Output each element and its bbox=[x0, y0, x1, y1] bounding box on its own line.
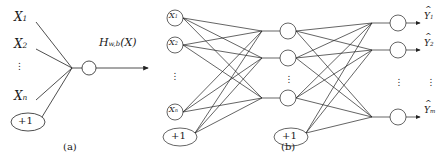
output-node-m bbox=[390, 109, 406, 125]
input-bias-label: +1 bbox=[171, 131, 186, 141]
output-label-m: Y^m bbox=[424, 106, 435, 115]
hidden-node-2 bbox=[280, 50, 296, 66]
panel-a-input-ellipsis: ... bbox=[18, 60, 21, 70]
panel-b-caption: (b) bbox=[281, 141, 295, 152]
figure-canvas: X1 X2 Xn ... +1 Hw,b(X) (a) X1 X2 Xn ...… bbox=[0, 0, 445, 165]
hidden-node-1 bbox=[280, 23, 296, 39]
output-label-ellipsis: ... bbox=[426, 76, 436, 86]
hidden-node-3 bbox=[280, 90, 296, 106]
hidden-bias-label: +1 bbox=[282, 131, 297, 141]
panel-a-output-label: Hw,b(X) bbox=[99, 37, 137, 48]
panel-b-input-to-hidden-edges bbox=[183, 18, 262, 133]
panel-b-hidden-to-output-edges bbox=[296, 23, 372, 133]
panel-a-input-edges bbox=[36, 22, 72, 117]
hidden-column-ellipsis: ... bbox=[284, 73, 294, 83]
panel-a-input-label-2: X2 bbox=[14, 38, 27, 50]
panel-a-caption: (a) bbox=[63, 141, 77, 152]
input-node-label-n: Xn bbox=[169, 106, 178, 114]
panel-a-input-label-1: X1 bbox=[14, 11, 27, 23]
output-column-ellipsis: ... bbox=[394, 76, 404, 86]
input-node-label-1: X1 bbox=[169, 12, 178, 20]
output-label-1: Y^1 bbox=[424, 12, 434, 21]
output-node-1 bbox=[390, 15, 406, 31]
input-column-ellipsis: ... bbox=[170, 70, 180, 80]
panel-a-bias-label: +1 bbox=[18, 116, 33, 126]
panel-a-input-label-n: Xn bbox=[14, 90, 27, 102]
output-label-2: Y^2 bbox=[424, 39, 434, 48]
panel-a-neuron bbox=[82, 61, 96, 75]
output-node-2 bbox=[390, 42, 406, 58]
input-node-label-2: X2 bbox=[169, 39, 178, 47]
